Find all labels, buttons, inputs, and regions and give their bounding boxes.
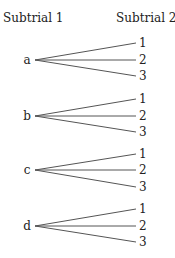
leaf-label: 1	[139, 37, 147, 49]
leaf-label: 3	[139, 181, 147, 193]
leaf-label: 2	[139, 54, 147, 66]
leaf-label: 1	[139, 93, 147, 105]
leaf-label: 3	[139, 126, 147, 138]
node-label: d	[22, 220, 32, 232]
node-label: a	[22, 54, 32, 66]
leaf-label: 2	[139, 164, 147, 176]
leaf-label: 3	[139, 236, 147, 248]
leaf-label: 1	[139, 148, 147, 160]
leaf-label: 2	[139, 220, 147, 232]
node-label: b	[22, 110, 32, 122]
leaf-label: 1	[139, 203, 147, 215]
leaf-label: 3	[139, 70, 147, 82]
leaf-label: 2	[139, 110, 147, 122]
node-label: c	[22, 164, 32, 176]
